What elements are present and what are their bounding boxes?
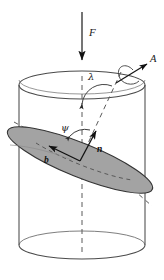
angle-psi-arc [70, 129, 90, 136]
axis-a-group: A [116, 53, 157, 84]
b-vector-label: b [44, 155, 49, 165]
force-arrow-group: F [82, 12, 96, 60]
physics-figure: F λ [0, 0, 164, 280]
diagram-canvas: F λ [0, 0, 164, 280]
normal-n-label: n [97, 144, 102, 154]
angle-psi-label: ψ [61, 122, 69, 133]
axis-a-label: A [149, 53, 157, 64]
angle-lambda-label: λ [87, 71, 94, 82]
force-label: F [88, 26, 96, 38]
angle-psi-group: ψ [61, 122, 90, 136]
